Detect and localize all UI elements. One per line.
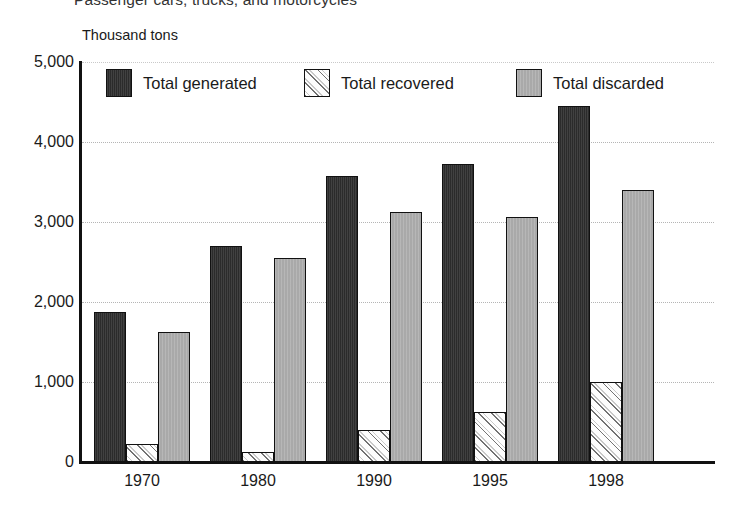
bar-1998-recovered xyxy=(590,382,622,462)
chart-title: Passenger cars, trucks, and motorcycles xyxy=(74,0,357,9)
gridline-5000 xyxy=(82,62,714,63)
legend-label: Total discarded xyxy=(553,74,664,93)
bar-1990-generated xyxy=(326,176,358,462)
x-tick-label-1998: 1998 xyxy=(588,472,624,490)
bar-1995-generated xyxy=(442,164,474,462)
bar-1995-discarded xyxy=(506,217,538,462)
bar-1995-recovered xyxy=(474,412,506,462)
x-tick-label-1980: 1980 xyxy=(240,472,276,490)
chart-figure: Passenger cars, trucks, and motorcycles … xyxy=(0,0,734,519)
bar-1998-generated xyxy=(558,106,590,462)
legend-item-generated: Total generated xyxy=(106,68,257,98)
y-axis-line xyxy=(79,61,82,463)
gray-solid-swatch xyxy=(516,69,542,97)
bar-1980-discarded xyxy=(274,258,306,462)
y-tick-label: 1,000 xyxy=(34,373,74,391)
x-tick-label-1995: 1995 xyxy=(472,472,508,490)
bar-1980-generated xyxy=(210,246,242,462)
gridline-4000 xyxy=(82,142,714,143)
x-tick-label-1990: 1990 xyxy=(356,472,392,490)
dark-solid-swatch xyxy=(106,69,132,97)
legend-item-recovered: Total recovered xyxy=(304,68,454,98)
bar-1990-recovered xyxy=(358,430,390,462)
y-axis-unit-label: Thousand tons xyxy=(82,27,178,43)
bar-1970-discarded xyxy=(158,332,190,462)
legend-label: Total recovered xyxy=(341,74,454,93)
y-tick-label: 3,000 xyxy=(34,213,74,231)
y-tick-label: 0 xyxy=(65,453,74,471)
y-tick-label: 2,000 xyxy=(34,293,74,311)
bar-1970-generated xyxy=(94,312,126,462)
chart-legend: Total generatedTotal recoveredTotal disc… xyxy=(82,68,714,102)
bar-1998-discarded xyxy=(622,190,654,462)
plot-area xyxy=(82,62,714,462)
x-tick-label-1970: 1970 xyxy=(124,472,160,490)
legend-label: Total generated xyxy=(143,74,257,93)
white-hatched-swatch xyxy=(304,69,330,97)
x-axis-line xyxy=(79,461,715,464)
y-tick-label: 4,000 xyxy=(34,133,74,151)
bar-1970-recovered xyxy=(126,444,158,462)
y-axis-tick-labels: 01,0002,0003,0004,0005,000 xyxy=(0,62,74,462)
bar-1990-discarded xyxy=(390,212,422,462)
y-tick-label: 5,000 xyxy=(34,53,74,71)
legend-item-discarded: Total discarded xyxy=(516,68,664,98)
